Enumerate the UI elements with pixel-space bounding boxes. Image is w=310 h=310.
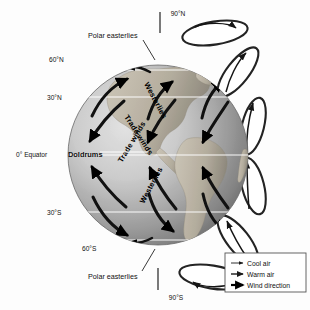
- global-circulation-diagram: Westerlies Trade winds Trade winds Weste…: [0, 0, 310, 310]
- label-latitude-equator: 0° Equator: [16, 151, 48, 159]
- label-polar-easterlies-north: Polar easterlies: [88, 31, 138, 40]
- label-latitude-30n: 30°N: [47, 94, 62, 101]
- label-latitude-30s: 30°S: [47, 209, 62, 216]
- diagram-canvas: Westerlies Trade winds Trade winds Weste…: [0, 0, 310, 310]
- label-latitude-90n: 90°N: [171, 10, 186, 17]
- label-latitude-60n: 60°N: [49, 56, 64, 63]
- label-polar-easterlies-south: Polar easterlies: [88, 272, 138, 281]
- label-latitude-60s: 60°S: [82, 245, 97, 252]
- legend-label-warm-air: Warm air: [247, 271, 275, 278]
- legend-label-cool-air: Cool air: [247, 260, 271, 267]
- label-latitude-90s: 90°S: [169, 294, 184, 301]
- legend: Cool air Warm air Wind direction: [225, 253, 306, 292]
- label-doldrums: Doldrums: [68, 150, 103, 159]
- legend-label-wind-direction: Wind direction: [247, 282, 290, 289]
